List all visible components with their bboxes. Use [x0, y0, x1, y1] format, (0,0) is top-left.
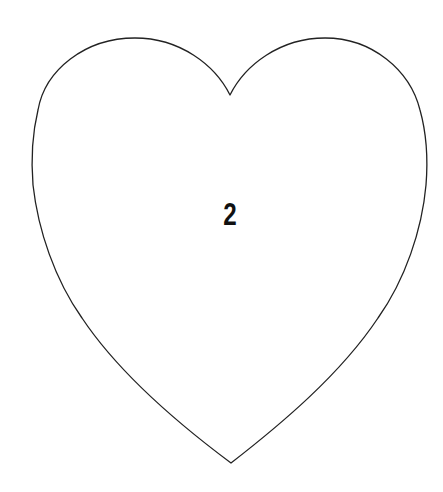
heart-number-label: 2	[214, 198, 245, 232]
heart-figure: 2	[0, 0, 443, 492]
heart-outline-icon	[0, 0, 443, 492]
